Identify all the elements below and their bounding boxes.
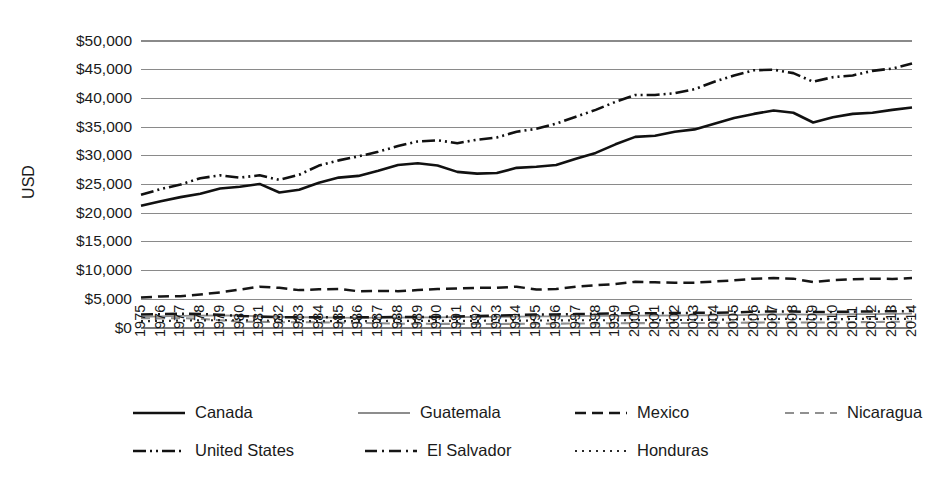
x-axis-tick-label: 1975 [132, 305, 148, 337]
y-axis-tick-label: $0 [115, 319, 133, 336]
x-axis-tick-label: 1988 [389, 305, 405, 337]
x-axis-tick-label: 1976 [152, 305, 168, 337]
legend-label-honduras: Honduras [637, 441, 709, 459]
y-axis-tick-label: $20,000 [76, 204, 132, 221]
x-axis-tick-label: 1985 [330, 305, 346, 337]
x-axis-tick-label: 2011 [844, 306, 860, 337]
x-axis-tick-label: 2007 [764, 305, 780, 337]
legend-label-el-salvador: El Salvador [427, 441, 512, 459]
x-axis-tick-label: 1996 [547, 305, 563, 337]
x-axis-tick-label: 1982 [270, 305, 286, 337]
legend-label-canada: Canada [195, 403, 254, 421]
y-axis-tick-label: $10,000 [76, 261, 132, 278]
x-axis-tick-label: 1978 [191, 305, 207, 337]
x-axis-tick-label: 1998 [587, 305, 603, 337]
x-axis-tick-label: 1984 [310, 305, 326, 337]
y-axis-tick-label: $5,000 [85, 290, 133, 307]
x-axis-tick-label: 1990 [428, 305, 444, 337]
y-axis-tick-label: $15,000 [76, 232, 132, 249]
x-axis-tick-label: 1989 [409, 305, 425, 337]
y-axis-title: USD [20, 165, 37, 199]
y-axis-tick-label: $45,000 [76, 60, 132, 77]
x-axis-tick-label: 1997 [567, 305, 583, 337]
x-axis-tick-label: 2001 [646, 305, 662, 337]
x-axis-tick-label: 1983 [290, 305, 306, 337]
y-axis-tick-label: $35,000 [76, 118, 132, 135]
x-axis-tick-label: 2002 [666, 305, 682, 337]
legend-label-nicaragua: Nicaragua [847, 403, 923, 421]
x-axis-tick-label: 2009 [804, 305, 820, 337]
x-axis-tick-label: 1995 [527, 305, 543, 337]
x-axis-tick-label: 2013 [883, 305, 899, 337]
y-axis-tick-label: $25,000 [76, 175, 132, 192]
x-axis-tick-label: 2006 [745, 305, 761, 337]
x-axis-tick-label: 2003 [685, 305, 701, 337]
x-axis-tick-label: 1991 [448, 305, 464, 337]
y-axis-tick-labels: $0$5,000$10,000$15,000$20,000$25,000$30,… [76, 32, 132, 336]
x-axis-tick-label: 1999 [606, 305, 622, 337]
x-axis-tick-label: 2014 [903, 305, 919, 337]
x-axis-tick-label: 1986 [349, 305, 365, 337]
legend-label-united-states: United States [195, 441, 294, 459]
x-axis-tick-label: 1979 [211, 305, 227, 337]
x-axis-tick-label: 1980 [231, 305, 247, 337]
x-axis-tick-label: 1994 [507, 305, 523, 337]
line-chart: $0$5,000$10,000$15,000$20,000$25,000$30,… [0, 0, 942, 484]
legend-label-guatemala: Guatemala [420, 403, 502, 421]
x-axis-tick-label: 1993 [488, 305, 504, 337]
x-axis-tick-label: 2012 [863, 305, 879, 337]
y-axis-tick-label: $50,000 [76, 32, 132, 49]
x-axis-tick-label: 1981 [250, 305, 266, 337]
x-axis-tick-label: 2000 [626, 305, 642, 337]
x-axis-tick-label: 1977 [171, 305, 187, 337]
x-axis-tick-label: 1992 [468, 305, 484, 337]
x-axis-tick-label: 2004 [705, 305, 721, 337]
legend-label-mexico: Mexico [637, 403, 689, 421]
y-axis-tick-label: $30,000 [76, 146, 132, 163]
y-axis-tick-label: $40,000 [76, 89, 132, 106]
x-axis-tick-label: 2005 [725, 305, 741, 337]
x-axis-tick-label: 2008 [784, 305, 800, 337]
x-axis-tick-label: 2010 [824, 305, 840, 337]
chart-container: $0$5,000$10,000$15,000$20,000$25,000$30,… [0, 0, 942, 484]
x-axis-tick-label: 1987 [369, 305, 385, 337]
